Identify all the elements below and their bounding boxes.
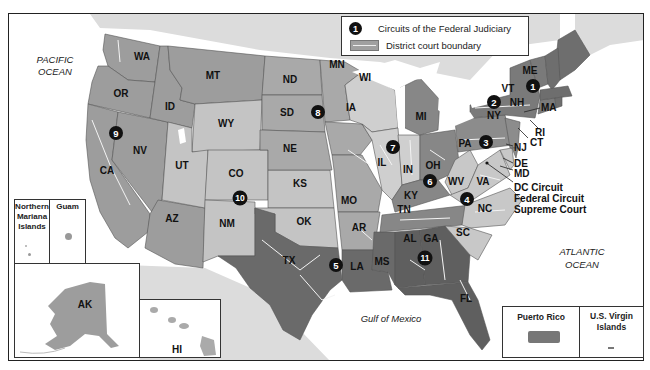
hawaii-label: HI [172,344,182,355]
inset-guam: Guam [49,199,86,264]
legend-circuits-label: Circuits of the Federal Judiciary [378,23,511,34]
puerto-rico-shape [528,331,560,343]
legend-row-district: District court boundary [350,40,481,51]
alaska-shape [45,282,119,350]
circuit-badge-sample: 1 [349,22,362,35]
guam-shape [65,233,72,240]
district-swatch [350,40,379,51]
legend-row-circuits: 1 Circuits of the Federal Judiciary [342,22,511,35]
inset-puerto-rico: Puerto Rico [502,306,580,358]
inset-northern-mariana: Northern Mariana Islands [14,199,50,264]
inset-usvi: U.S. Virgin Islands [579,306,644,358]
hawaii-shape [200,336,216,356]
guam-label: Guam [50,202,85,212]
islands-shape [28,253,31,256]
usvi-label: U.S. Virgin Islands [580,311,643,333]
alaska-label: AK [78,299,93,310]
northern-mariana-label: Northern Mariana Islands [15,202,49,232]
usvi-shape [608,347,614,349]
puerto-rico-label: Puerto Rico [503,312,579,322]
legend: 1 Circuits of the Federal Judiciary Dist… [341,16,529,56]
legend-district-label: District court boundary [386,40,481,51]
inset-alaska: AK [14,263,140,358]
inset-hawaii: HI [139,299,221,358]
